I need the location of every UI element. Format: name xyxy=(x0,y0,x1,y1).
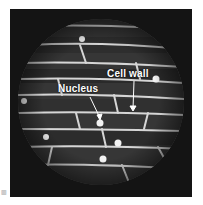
label-nucleus: Nucleus xyxy=(58,83,98,94)
label-cell-wall: Cell wall xyxy=(107,68,149,79)
corner-mark-icon: ▥ xyxy=(1,188,7,195)
microscope-field xyxy=(18,19,184,185)
cell-structure-graphic xyxy=(18,19,184,185)
